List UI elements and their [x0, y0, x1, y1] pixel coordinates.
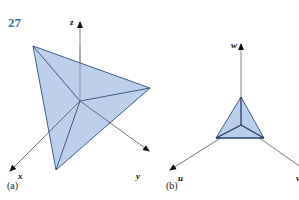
figure: 27 z x y (a) w u v (b): [0, 0, 299, 200]
panel-a: z x y (a): [7, 17, 150, 192]
y-axis-label: y: [135, 171, 141, 181]
surface-b: [216, 97, 264, 138]
caption-a: (a): [7, 180, 18, 192]
panel-b: w u v (b): [166, 40, 299, 192]
surface-a: [33, 46, 150, 170]
w-axis-label: w: [231, 40, 238, 50]
z-axis-label: z: [69, 17, 74, 27]
caption-b: (b): [166, 180, 178, 192]
v-axis-label: v: [296, 173, 299, 183]
problem-number: 27: [8, 15, 22, 30]
u-axis-label: u: [178, 173, 183, 183]
